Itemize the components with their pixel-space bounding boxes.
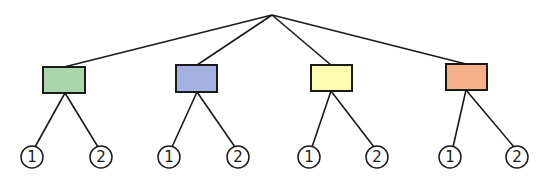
edge-root-blue [197, 15, 272, 65]
leaf-node: 2 [227, 146, 249, 168]
leaf-node: 1 [21, 146, 43, 168]
leaf-label: 2 [512, 148, 522, 166]
leaf-label: 1 [304, 148, 314, 166]
leaf-label: 2 [233, 148, 243, 166]
leaf-label: 2 [372, 148, 382, 166]
leaf-label: 2 [96, 148, 106, 166]
edge-yellow-leaf1 [312, 91, 331, 147]
leaf-node: 1 [439, 146, 461, 168]
branch-blue: 1 2 [158, 65, 249, 168]
leaf-label: 1 [164, 148, 174, 166]
node-box-yellow [311, 65, 352, 91]
edge-yellow-leaf2 [331, 91, 374, 147]
tree-diagram: 1 2 1 2 1 2 [0, 0, 542, 178]
branch-yellow: 1 2 [298, 65, 388, 168]
edge-green-leaf2 [65, 93, 98, 147]
leaf-label: 1 [445, 148, 455, 166]
edge-blue-leaf2 [197, 92, 235, 147]
node-box-blue [176, 65, 217, 92]
edge-green-leaf1 [35, 93, 65, 147]
edge-orange-leaf2 [466, 90, 514, 147]
root-edges [64, 15, 466, 67]
edge-root-green [64, 15, 272, 67]
edge-blue-leaf1 [172, 92, 197, 147]
node-box-green [43, 67, 85, 93]
leaf-label: 1 [27, 148, 37, 166]
node-box-orange [446, 64, 487, 90]
branch-green: 1 2 [21, 67, 112, 168]
leaf-node: 2 [366, 146, 388, 168]
leaf-node: 2 [90, 146, 112, 168]
edge-orange-leaf1 [453, 90, 466, 147]
branch-orange: 1 2 [439, 64, 528, 168]
leaf-node: 1 [158, 146, 180, 168]
leaf-node: 1 [298, 146, 320, 168]
leaf-node: 2 [506, 146, 528, 168]
